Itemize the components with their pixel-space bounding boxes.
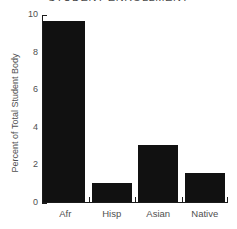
y-tick-label: 10: [28, 9, 38, 19]
x-tick-mark: [182, 197, 183, 203]
bar-asian[interactable]: [138, 145, 178, 201]
plot-area: 0246810 AfrHispAsianNative: [42, 15, 228, 203]
x-tick-mark: [135, 197, 136, 203]
x-category-label-asian: Asian: [146, 208, 170, 219]
y-tick-label: 4: [33, 122, 38, 132]
y-tick-mark: [42, 15, 47, 16]
y-tick-label: 2: [33, 159, 38, 169]
x-tick-mark: [89, 197, 90, 203]
y-tick-label: 8: [33, 47, 38, 57]
chart-title: STUDENT ENROLLMENT: [0, 0, 237, 3]
y-tick-label: 6: [33, 84, 38, 94]
chart-figure: STUDENT ENROLLMENT Percent of Total Stud…: [0, 0, 237, 229]
y-axis-title: Percent of Total Student Body: [10, 38, 20, 188]
y-tick-mark: [42, 203, 47, 204]
x-category-label-hisp: Hisp: [102, 208, 121, 219]
x-category-label-native: Native: [191, 208, 218, 219]
x-category-label-afr: Afr: [59, 208, 71, 219]
bar-afr[interactable]: [43, 21, 85, 201]
x-axis-right-cap: [227, 197, 228, 203]
y-tick-label: 0: [33, 197, 38, 207]
bar-hisp[interactable]: [92, 183, 132, 202]
bar-native[interactable]: [185, 173, 225, 201]
